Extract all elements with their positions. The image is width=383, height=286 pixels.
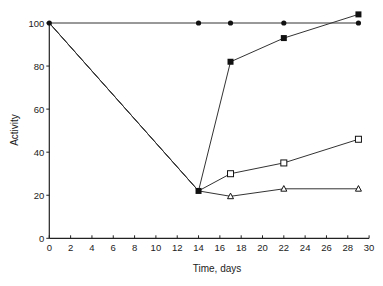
open-square-marker xyxy=(281,160,287,166)
x-tick-label: 12 xyxy=(172,242,183,253)
x-tick-label: 0 xyxy=(47,242,52,253)
filled-square-marker xyxy=(196,188,202,194)
x-tick-label: 18 xyxy=(236,242,247,253)
filled-square-marker xyxy=(281,35,287,41)
x-tick-label: 28 xyxy=(342,242,353,253)
y-tick-label: 80 xyxy=(34,61,45,72)
x-tick-label: 6 xyxy=(111,242,116,253)
filled-square-marker xyxy=(355,11,361,17)
x-tick-label: 10 xyxy=(151,242,162,253)
y-tick-label: 20 xyxy=(34,190,45,201)
filled-circle-marker xyxy=(196,20,201,25)
x-tick-label: 14 xyxy=(193,242,204,253)
x-tick-label: 26 xyxy=(321,242,332,253)
x-tick-label: 20 xyxy=(257,242,268,253)
filled-square-marker xyxy=(228,59,234,65)
x-tick-label: 2 xyxy=(68,242,73,253)
y-axis-title: Activity xyxy=(9,114,20,146)
open-square-marker xyxy=(355,136,361,142)
y-tick-label: 60 xyxy=(34,104,45,115)
axes: 024681012141618202224262830020406080100 xyxy=(28,18,374,254)
x-axis-title: Time, days xyxy=(193,263,242,274)
y-tick-label: 40 xyxy=(34,147,45,158)
x-tick-label: 22 xyxy=(279,242,290,253)
series-line xyxy=(49,23,358,191)
open-square-marker xyxy=(228,171,234,177)
activity-time-chart: 024681012141618202224262830020406080100 … xyxy=(0,0,383,286)
data-series xyxy=(47,11,362,198)
series-line xyxy=(49,14,358,191)
filled-circle-marker xyxy=(356,20,361,25)
x-tick-label: 16 xyxy=(215,242,226,253)
x-tick-label: 30 xyxy=(364,242,375,253)
filled-circle-marker xyxy=(228,20,233,25)
x-tick-label: 8 xyxy=(132,242,137,253)
x-tick-label: 4 xyxy=(89,242,94,253)
y-tick-label: 0 xyxy=(39,233,44,244)
filled-circle-marker xyxy=(47,20,52,25)
x-tick-label: 24 xyxy=(300,242,311,253)
y-tick-label: 100 xyxy=(28,18,44,29)
filled-circle-marker xyxy=(281,20,286,25)
